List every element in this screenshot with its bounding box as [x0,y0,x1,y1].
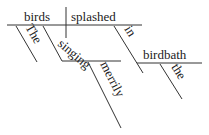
diagram-svg: birds splashed The singing merrily in bi… [0,0,209,135]
word-participle: singing [55,36,94,72]
word-object-article: the [168,61,189,83]
word-adverb: merrily [97,59,128,100]
word-prep-object: birdbath [143,47,187,62]
word-subject: birds [24,9,50,24]
sentence-diagram: birds splashed The singing merrily in bi… [0,0,209,135]
word-verb: splashed [71,9,116,24]
